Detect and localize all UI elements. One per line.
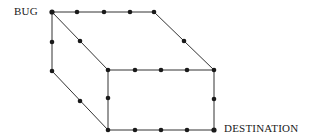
node — [75, 10, 80, 15]
node — [212, 68, 217, 73]
bug-label: BUG — [14, 5, 38, 17]
node — [159, 128, 164, 133]
box-diagram — [0, 0, 324, 140]
node — [106, 128, 111, 133]
node — [78, 39, 83, 44]
node — [102, 10, 107, 15]
node — [50, 40, 55, 45]
node-bug — [49, 9, 54, 14]
destination-label: DESTINATION — [224, 122, 298, 134]
node — [185, 68, 190, 73]
node — [50, 69, 55, 74]
lattice-nodes — [49, 9, 216, 132]
node — [133, 128, 138, 133]
node — [212, 97, 217, 102]
node — [182, 39, 187, 44]
node — [106, 96, 111, 101]
diagram-canvas: BUG DESTINATION — [0, 0, 324, 140]
node — [185, 128, 190, 133]
node — [133, 68, 138, 73]
node — [152, 10, 157, 15]
node — [159, 68, 164, 73]
node — [128, 10, 133, 15]
node-destination — [211, 127, 216, 132]
node — [78, 99, 83, 104]
node — [106, 68, 111, 73]
